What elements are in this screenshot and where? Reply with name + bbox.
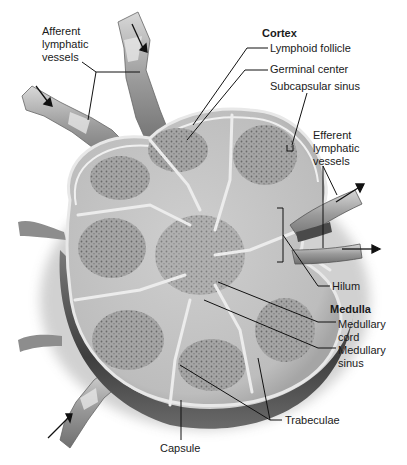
label-medulla: Medulla (330, 303, 371, 316)
label-hilum: Hilum (332, 280, 360, 293)
label-capsule: Capsule (160, 442, 200, 455)
label-afferent-lymphatic-vessels: Afferent lymphatic vessels (42, 25, 88, 64)
label-germinal-center: Germinal center (270, 63, 348, 76)
leader-afferent (82, 62, 96, 120)
follicle (255, 298, 315, 362)
arrowhead (372, 245, 380, 253)
label-cortex: Cortex (262, 27, 297, 40)
label-medullary-sinus: Medullary sinus (338, 344, 386, 370)
label-medullary-cord: Medullary cord (338, 318, 386, 344)
follicle (233, 125, 297, 185)
follicle (90, 156, 150, 200)
label-subcapsular-sinus: Subcapsular sinus (270, 80, 360, 93)
medullary-cords (155, 215, 245, 295)
label-trabeculae: Trabeculae (285, 414, 340, 427)
label-efferent-lymphatic-vessels: Efferent lymphatic vessels (313, 129, 359, 168)
blood-vessel-left-upper (18, 221, 66, 240)
label-lymphoid-follicle: Lymphoid follicle (270, 42, 351, 55)
follicle (78, 218, 146, 278)
follicle (92, 310, 164, 370)
follicle (178, 339, 246, 391)
